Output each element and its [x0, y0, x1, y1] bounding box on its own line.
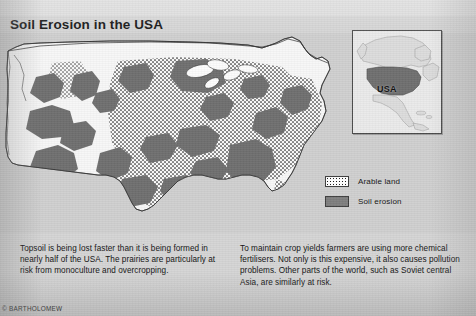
arable-land-swatch-icon	[325, 176, 349, 187]
copyright-credit: © BARTHOLOMEW	[2, 305, 62, 312]
legend-label-arable-land: Arable land	[358, 177, 400, 186]
header-band	[0, 0, 476, 16]
inset-locator-map: USA	[352, 30, 442, 134]
inset-usa-label: USA	[377, 84, 397, 94]
page-title: Soil Erosion in the USA	[10, 17, 163, 32]
map-legend: Arable land Soil erosion	[325, 174, 402, 214]
legend-item-soil-erosion: Soil erosion	[325, 194, 402, 208]
legend-label-soil-erosion: Soil erosion	[358, 197, 402, 206]
soil-erosion-swatch-icon	[325, 196, 349, 207]
caption-left: Topsoil is being lost faster than it is …	[20, 243, 230, 277]
legend-item-arable-land: Arable land	[325, 174, 402, 188]
soil-erosion-map-page: Soil Erosion in the USA	[0, 0, 476, 316]
caption-right: To maintain crop yields farmers are usin…	[240, 243, 468, 288]
